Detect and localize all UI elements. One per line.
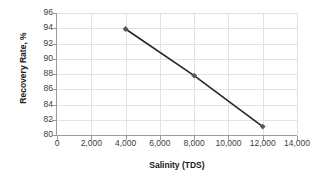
y-axis-tick-label: 96 (35, 8, 53, 17)
x-axis-tick-mark (194, 136, 195, 140)
y-axis-tick-label: 94 (35, 23, 53, 32)
y-axis-tick-mark (52, 120, 56, 121)
x-axis-tick-mark (160, 136, 161, 140)
y-axis-tick-mark (52, 13, 56, 14)
gridline-vertical (297, 13, 298, 135)
y-axis-tick-labels: 808284868890929496 (33, 0, 53, 181)
y-axis-tick-mark (52, 28, 56, 29)
chart-container: Recovery Rate, % 808284868890929496 Sali… (0, 0, 325, 181)
x-axis-tick-mark (57, 136, 58, 140)
y-axis-tick-label: 86 (35, 84, 53, 93)
y-axis-title: Recovery Rate, % (16, 0, 30, 138)
y-axis-tick-label: 88 (35, 69, 53, 78)
x-axis-tick-mark (297, 136, 298, 140)
y-axis-tick-mark (52, 59, 56, 60)
y-axis-tick-mark (52, 74, 56, 75)
y-axis-tick-label: 82 (35, 115, 53, 124)
x-axis-tick-mark (91, 136, 92, 140)
y-axis-tick-mark (52, 89, 56, 90)
y-axis-tick-label: 84 (35, 100, 53, 109)
x-axis-tick-mark (228, 136, 229, 140)
x-axis-title: Salinity (TDS) (57, 160, 297, 170)
y-axis-tick-mark (52, 135, 56, 136)
y-axis-tick-label: 92 (35, 39, 53, 48)
x-axis-tick-mark (126, 136, 127, 140)
y-axis-tick-label: 90 (35, 54, 53, 63)
y-axis-tick-mark (52, 44, 56, 45)
series-line-recovery-rate (57, 13, 297, 135)
y-axis-tick-mark (52, 105, 56, 106)
x-axis-tick-mark (263, 136, 264, 140)
plot-area (57, 13, 297, 135)
